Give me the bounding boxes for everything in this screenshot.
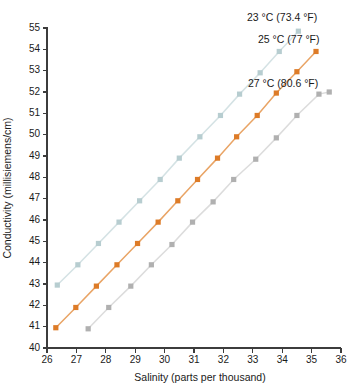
y-axis-title: Conductivity (millisiemens/cm) <box>1 117 13 258</box>
data-point-marker <box>116 220 121 225</box>
data-point-marker <box>156 220 161 225</box>
data-point-marker <box>94 284 99 289</box>
x-tick-label: 30 <box>159 354 171 365</box>
data-point-marker <box>75 262 80 267</box>
data-point-marker <box>106 305 111 310</box>
series-label-3: 27 °C (80.6 °F) <box>248 77 318 89</box>
x-tick-label: 26 <box>41 354 53 365</box>
y-tick-label: 47 <box>29 192 41 203</box>
y-tick-label: 53 <box>29 64 41 75</box>
x-axis-title: Salinity (parts per thousand) <box>134 371 265 383</box>
data-point-marker <box>195 177 200 182</box>
y-tick-label: 51 <box>29 107 41 118</box>
data-series-layer <box>53 29 332 332</box>
data-point-marker <box>294 69 299 74</box>
data-point-marker <box>277 49 282 54</box>
y-tick-label: 40 <box>29 342 41 353</box>
x-tick-label: 36 <box>335 354 347 365</box>
data-point-marker <box>175 198 180 203</box>
series-label-1: 23 °C (73.4 °F) <box>247 11 317 23</box>
y-tick-label: 43 <box>29 278 41 289</box>
data-point-marker <box>258 70 263 75</box>
x-tick-label: 32 <box>218 354 230 365</box>
series-3 <box>86 89 332 331</box>
y-tick-label: 52 <box>29 86 41 97</box>
y-tick-label: 41 <box>29 320 41 331</box>
data-point-marker <box>169 242 174 247</box>
data-point-marker <box>237 92 242 97</box>
data-point-marker <box>158 177 163 182</box>
y-tick-label: 50 <box>29 128 41 139</box>
data-point-marker <box>114 262 119 267</box>
data-point-marker <box>197 134 202 139</box>
y-tick-label: 49 <box>29 150 41 161</box>
y-axis-ticks: 40414243444546474849505152535455 <box>29 22 47 353</box>
data-point-marker <box>255 113 260 118</box>
data-point-marker <box>313 49 318 54</box>
x-tick-label: 27 <box>71 354 83 365</box>
data-point-marker <box>294 113 299 118</box>
y-tick-label: 54 <box>29 43 41 54</box>
data-point-marker <box>190 220 195 225</box>
data-point-marker <box>53 325 58 330</box>
y-tick-label: 42 <box>29 299 41 310</box>
series-annotation-layer: 23 °C (73.4 °F)25 °C (77 °F)27 °C (80.6 … <box>247 11 320 89</box>
data-point-marker <box>96 241 101 246</box>
data-point-marker <box>73 305 78 310</box>
data-point-marker <box>316 92 321 97</box>
series-1 <box>55 29 301 288</box>
x-tick-label: 35 <box>306 354 318 365</box>
data-point-marker <box>215 156 220 161</box>
data-point-marker <box>137 198 142 203</box>
x-tick-label: 28 <box>100 354 112 365</box>
y-tick-label: 45 <box>29 235 41 246</box>
data-point-marker <box>218 113 223 118</box>
data-point-marker <box>234 134 239 139</box>
data-point-marker <box>86 326 91 331</box>
data-point-marker <box>55 282 60 287</box>
data-point-marker <box>274 135 279 140</box>
x-tick-label: 33 <box>247 354 259 365</box>
conductivity-salinity-chart: 40414243444546474849505152535455 2627282… <box>0 0 355 388</box>
x-tick-label: 29 <box>130 354 142 365</box>
y-tick-label: 55 <box>29 22 41 33</box>
data-point-marker <box>177 156 182 161</box>
data-point-marker <box>211 199 216 204</box>
data-point-marker <box>135 241 140 246</box>
data-point-marker <box>128 284 133 289</box>
x-axis-ticks: 2627282930313233343536 <box>41 348 347 365</box>
y-tick-label: 44 <box>29 256 41 267</box>
data-point-marker <box>253 157 258 162</box>
series-label-2: 25 °C (77 °F) <box>258 33 320 45</box>
y-tick-label: 48 <box>29 171 41 182</box>
x-tick-label: 34 <box>277 354 289 365</box>
data-point-marker <box>231 177 236 182</box>
data-point-marker <box>149 262 154 267</box>
series-2 <box>53 49 318 330</box>
data-point-marker <box>274 90 279 95</box>
y-tick-label: 46 <box>29 214 41 225</box>
axis-lines <box>47 27 341 348</box>
chart-svg: 40414243444546474849505152535455 2627282… <box>0 0 355 388</box>
data-point-marker <box>327 89 332 94</box>
x-tick-label: 31 <box>188 354 200 365</box>
